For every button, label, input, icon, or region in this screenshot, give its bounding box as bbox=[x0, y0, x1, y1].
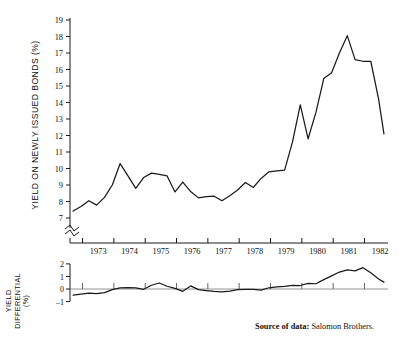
axis-break-icon-upper bbox=[65, 225, 79, 231]
main-y-tick-label: 16 bbox=[55, 66, 63, 75]
diff-y-axis-label: YIELD DIFFERENTIAL (%) bbox=[5, 269, 31, 333]
source-label: Source of data: bbox=[255, 322, 309, 331]
chart-svg: 7891011121314151617181919731974197519761… bbox=[0, 0, 419, 343]
diff-y-axis-label-line2: DIFFERENTIAL bbox=[13, 273, 22, 329]
diff-y-axis-label-unit: (%) bbox=[22, 295, 29, 307]
diff-y-tick-label: –1 bbox=[55, 298, 64, 307]
diff-y-tick-label: 1 bbox=[60, 273, 64, 282]
main-y-tick-label: 10 bbox=[55, 165, 63, 174]
diff-yield-line bbox=[73, 268, 384, 295]
main-y-tick-label: 9 bbox=[59, 181, 63, 190]
main-y-tick-label: 18 bbox=[55, 33, 63, 42]
diff-y-tick-label: 0 bbox=[60, 285, 64, 294]
diff-y-tick-label: 2 bbox=[60, 260, 64, 269]
main-y-tick-label: 13 bbox=[55, 115, 63, 124]
main-y-tick-label: 17 bbox=[55, 49, 63, 58]
main-x-tick-label: 1974 bbox=[121, 247, 139, 256]
main-plot-group: 7891011121314151617181919731974197519761… bbox=[55, 16, 389, 256]
main-y-tick-label: 8 bbox=[59, 198, 63, 207]
differential-plot-group: 210–1 bbox=[55, 260, 388, 307]
source-value: Salomon Brothers. bbox=[311, 322, 374, 331]
main-x-tick-label: 1982 bbox=[372, 247, 389, 256]
main-x-tick-label: 1976 bbox=[184, 247, 201, 256]
main-x-tick-label: 1977 bbox=[215, 247, 232, 256]
figure-container: YIELD ON NEWLY ISSUED BONDS (%) YIELD DI… bbox=[0, 0, 419, 343]
main-y-tick-label: 7 bbox=[59, 214, 63, 223]
main-x-tick-label: 1980 bbox=[309, 247, 326, 256]
main-x-tick-label: 1979 bbox=[278, 247, 295, 256]
axis-break-icon bbox=[65, 230, 79, 236]
main-y-tick-label: 14 bbox=[55, 99, 64, 108]
main-y-tick-label: 11 bbox=[55, 148, 63, 157]
main-x-tick-label: 1973 bbox=[90, 247, 107, 256]
main-yield-line bbox=[73, 36, 384, 211]
main-y-tick-label: 12 bbox=[55, 132, 63, 141]
main-x-tick-label: 1975 bbox=[152, 247, 169, 256]
source-note: Source of data: Salomon Brothers. bbox=[255, 322, 374, 331]
main-x-tick-label: 1981 bbox=[340, 247, 357, 256]
main-y-tick-label: 19 bbox=[55, 16, 63, 25]
main-x-tick-label: 1978 bbox=[246, 247, 263, 256]
main-y-axis-label: YIELD ON NEWLY ISSUED BONDS (%) bbox=[30, 20, 40, 230]
main-y-tick-label: 15 bbox=[55, 82, 63, 91]
